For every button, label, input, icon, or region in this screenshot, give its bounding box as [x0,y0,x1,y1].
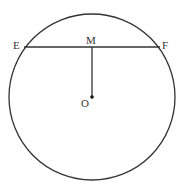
center-point-o [90,95,94,99]
label-f: F [162,39,168,51]
label-e: E [13,39,20,51]
geometry-diagram: E M F O [0,0,181,188]
label-o: O [81,97,89,109]
label-m: M [86,34,96,46]
